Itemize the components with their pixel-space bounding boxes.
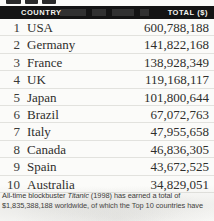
clipped-glyph-3: [42, 0, 56, 4]
table-caption: All-time blockbuster Titanic (1998) has …: [2, 191, 213, 211]
film-title: Titanic: [68, 191, 89, 200]
ranking-table-clipping: COUNTRY TOTAL ($) 1 USA 600,788,188 2 Ge…: [0, 0, 214, 221]
row-rank: 9: [3, 159, 20, 175]
row-total: 138,928,349: [144, 55, 209, 71]
row-total: 67,072,763: [151, 107, 210, 123]
row-rank: 7: [3, 124, 20, 140]
caption-line-1: All-time blockbuster Titanic (1998) has …: [2, 191, 213, 201]
top-edge-bleed-artifact: [0, 0, 214, 5]
row-country: UK: [27, 72, 46, 88]
row-country: Brazil: [27, 107, 59, 123]
row-total: 600,788,188: [144, 20, 209, 36]
row-total: 47,955,658: [151, 124, 210, 140]
row-rank: 8: [3, 142, 20, 158]
row-rank: 6: [3, 107, 20, 123]
scan-smudge: [140, 9, 149, 16]
table-body: 1 USA 600,788,188 2 Germany 141,822,168 …: [0, 19, 214, 193]
row-total: 141,822,168: [144, 37, 209, 53]
scan-smudge: [112, 9, 134, 16]
row-total: 101,800,644: [144, 90, 209, 106]
row-rank: 2: [3, 37, 20, 53]
row-total: 43,672,525: [151, 159, 210, 175]
caption-line-1-pre: All-time blockbuster: [2, 191, 68, 200]
row-rank: 5: [3, 90, 20, 106]
table-row: 7 Italy 47,955,658: [0, 123, 214, 140]
table-row: 8 Canada 46,836,305: [0, 141, 214, 158]
table-row: 3 France 138,928,349: [0, 54, 214, 71]
row-rank: 1: [3, 20, 20, 36]
row-country: Italy: [27, 124, 51, 140]
caption-line-1-post: (1998) has earned a total of: [89, 191, 180, 200]
caption-line-2: $1,835,388,188 worldwide, of which the T…: [2, 201, 213, 211]
column-header-total: TOTAL ($): [168, 8, 208, 17]
row-total: 46,836,305: [151, 142, 210, 158]
row-country: Germany: [27, 37, 75, 53]
column-header-country: COUNTRY: [21, 8, 62, 17]
table-row: 1 USA 600,788,188: [0, 19, 214, 36]
row-country: France: [27, 55, 62, 71]
table-row: 6 Brazil 67,072,763: [0, 106, 214, 123]
scan-smudge: [60, 9, 86, 16]
row-total: 119,168,117: [145, 72, 209, 88]
clipped-glyph-2: [25, 0, 38, 4]
table-row: 5 Japan 101,800,644: [0, 89, 214, 106]
row-country: USA: [27, 20, 53, 36]
clipped-glyph-1: [6, 0, 21, 4]
table-row: 2 Germany 141,822,168: [0, 36, 214, 53]
row-rank: 4: [3, 72, 20, 88]
table-row: 4 UK 119,168,117: [0, 71, 214, 88]
table-row: 9 Spain 43,672,525: [0, 158, 214, 175]
table-header-row: COUNTRY TOTAL ($): [0, 6, 214, 19]
row-country: Spain: [27, 159, 57, 175]
scan-smudge: [92, 9, 106, 16]
row-country: Japan: [27, 90, 57, 106]
row-country: Canada: [27, 142, 66, 158]
row-rank: 3: [3, 55, 20, 71]
